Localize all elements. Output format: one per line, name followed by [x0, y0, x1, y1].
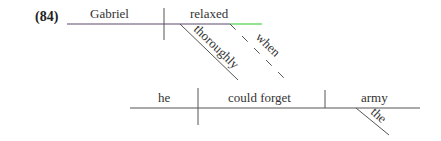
verb-relaxed: relaxed: [190, 6, 229, 21]
connector-when: when: [253, 29, 284, 60]
verb-could-forget: could forget: [228, 90, 291, 105]
subject-gabriel: Gabriel: [90, 6, 129, 21]
example-number: (84): [35, 9, 59, 25]
sentence-diagram: (84) Gabriel relaxed thoroughly when he …: [0, 0, 441, 141]
subject-he: he: [158, 90, 171, 105]
article-the: the: [368, 104, 390, 126]
object-army: army: [361, 90, 388, 105]
